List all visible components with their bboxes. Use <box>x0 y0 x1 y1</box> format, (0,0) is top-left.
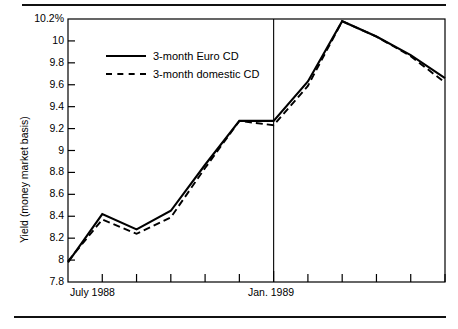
y-tick-label: 10.2% <box>10 13 64 24</box>
solid-line-swatch-icon <box>106 51 146 61</box>
y-axis-ticks <box>68 41 75 260</box>
y-tick-label: 8 <box>10 254 64 265</box>
figure-container: 10.2%109.89.69.49.298.88.68.48.287.8 Yie… <box>0 0 458 329</box>
y-tick-label: 7.8 <box>10 276 64 287</box>
legend-item-euro-cd: 3-month Euro CD <box>106 47 296 65</box>
chart-legend: 3-month Euro CD 3-month domestic CD <box>106 47 296 83</box>
legend-label-domestic-cd: 3-month domestic CD <box>153 68 259 80</box>
legend-label-euro-cd: 3-month Euro CD <box>153 50 239 62</box>
y-axis-title: Yield (money market basis) <box>18 116 30 243</box>
x-axis-label-divider: Jan. 1989 <box>248 286 294 298</box>
y-tick-label: 9.6 <box>10 79 64 90</box>
x-axis-label-start: July 1988 <box>70 286 115 298</box>
legend-item-domestic-cd: 3-month domestic CD <box>106 65 296 83</box>
y-tick-label: 10 <box>10 35 64 46</box>
y-tick-label: 9.8 <box>10 57 64 68</box>
y-tick-label: 9.4 <box>10 101 64 112</box>
dashed-line-swatch-icon <box>106 69 146 79</box>
